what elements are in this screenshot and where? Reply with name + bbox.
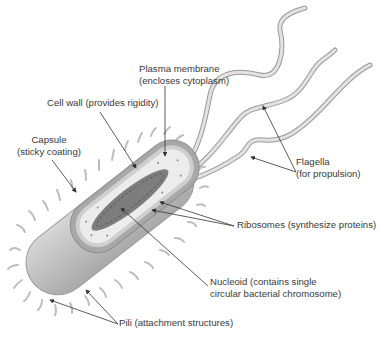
nucleoid-label: Nucleoid (contains single circular bacte… xyxy=(210,276,341,299)
capsule-label: Capsule (sticky coating) xyxy=(17,134,81,157)
ribosomes-label: Ribosomes (synthesize proteins) xyxy=(237,219,376,231)
pili-leader-1 xyxy=(50,300,118,324)
cell-wall-leader xyxy=(100,112,136,168)
bacterial-cell-diagram: Plasma membrane (encloses cytoplasm) Cel… xyxy=(0,0,379,343)
capsule-leader xyxy=(52,160,76,192)
cell-wall-label: Cell wall (provides rigidity) xyxy=(47,97,158,109)
pili-leader-2 xyxy=(86,290,118,324)
flagella-group xyxy=(182,8,370,180)
plasma-membrane-label: Plasma membrane (encloses cytoplasm) xyxy=(139,63,229,86)
pili-label: Pili (attachment structures) xyxy=(119,317,233,329)
flagella-label: Flagella (for propulsion) xyxy=(296,156,361,179)
